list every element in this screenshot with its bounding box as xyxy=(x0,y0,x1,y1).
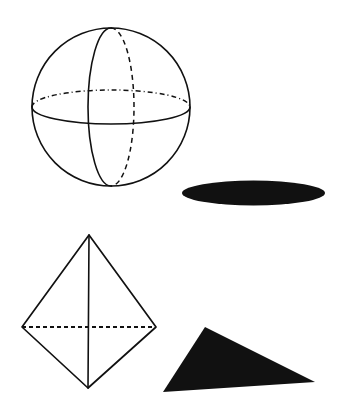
tetrahedron-shadow xyxy=(163,327,315,392)
tetrahedron xyxy=(22,235,156,388)
sphere-outline-circle xyxy=(32,28,190,186)
sphere-shadow-ellipse xyxy=(182,181,325,206)
tetrahedron-shadow-triangle xyxy=(163,327,315,392)
geometry-illustration: Geometric solids with their shadows xyxy=(0,0,339,419)
sphere xyxy=(32,28,190,186)
tetrahedron-edge-apex-bottom xyxy=(88,235,89,388)
sphere-equator-visible-arc xyxy=(32,107,190,124)
figure-canvas: Geometric solids with their shadows xyxy=(0,0,339,419)
sphere-equator-hidden-arc xyxy=(32,90,190,107)
sphere-meridian-hidden-arc xyxy=(111,28,134,186)
sphere-shadow xyxy=(182,181,325,206)
sphere-meridian-visible-arc xyxy=(88,28,111,186)
